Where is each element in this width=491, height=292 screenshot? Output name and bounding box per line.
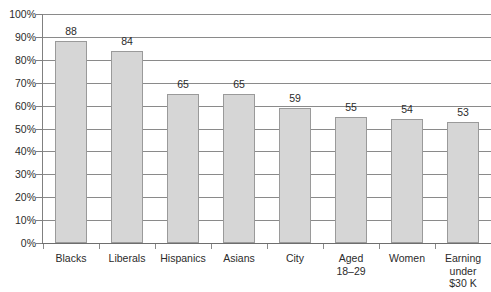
gridline xyxy=(43,37,491,38)
y-axis-tick-mark xyxy=(36,174,42,175)
x-axis-tick-mark xyxy=(155,244,156,249)
bar xyxy=(335,117,367,243)
y-axis-tick-label: 40% xyxy=(15,146,36,157)
bar xyxy=(391,119,423,243)
x-axis-tick-mark xyxy=(43,244,44,249)
y-axis-tick-mark xyxy=(36,106,42,107)
x-axis-category-label: Aged 18–29 xyxy=(336,252,365,277)
bar xyxy=(111,51,143,243)
x-axis-category-label: Earning under $30 K xyxy=(445,252,481,290)
y-axis-tick-label: 10% xyxy=(15,215,36,226)
bar-value-label: 88 xyxy=(65,26,77,37)
x-axis-category-label: Liberals xyxy=(109,252,146,265)
y-axis-tick-mark xyxy=(36,243,42,244)
gridline xyxy=(43,14,491,15)
y-axis-tick-mark xyxy=(36,37,42,38)
bar-value-label: 53 xyxy=(457,107,469,118)
y-axis-tick-mark xyxy=(36,14,42,15)
bar xyxy=(167,94,199,243)
plot-area xyxy=(43,14,491,243)
x-axis-category-label: Women xyxy=(389,252,425,265)
x-axis-category-label: Asians xyxy=(223,252,255,265)
x-axis-tick-mark xyxy=(435,244,436,249)
bar xyxy=(223,94,255,243)
x-axis-tick-mark xyxy=(211,244,212,249)
bar-value-label: 65 xyxy=(233,79,245,90)
x-axis-tick-mark xyxy=(267,244,268,249)
y-axis-tick-mark xyxy=(36,60,42,61)
y-axis-tick-label: 90% xyxy=(15,32,36,43)
bar xyxy=(447,122,479,243)
bar-chart: 100%90%80%70%60%50%40%30%20%10%0% 88Blac… xyxy=(0,0,491,292)
y-axis-tick-label: 20% xyxy=(15,192,36,203)
bar-value-label: 84 xyxy=(121,36,133,47)
y-axis-tick-mark xyxy=(36,129,42,130)
y-axis-tick-label: 80% xyxy=(15,55,36,66)
bar xyxy=(55,41,87,243)
bar xyxy=(279,108,311,243)
y-axis-tick-label: 70% xyxy=(15,77,36,88)
y-axis-tick-label: 100% xyxy=(9,9,36,20)
y-axis-tick-label: 50% xyxy=(15,123,36,134)
y-axis-tick-mark xyxy=(36,197,42,198)
bar-value-label: 55 xyxy=(345,102,357,113)
bar-value-label: 59 xyxy=(289,93,301,104)
x-axis-tick-mark xyxy=(323,244,324,249)
x-axis-category-label: Hispanics xyxy=(160,252,206,265)
y-axis-tick-label: 30% xyxy=(15,169,36,180)
bar-value-label: 65 xyxy=(177,79,189,90)
y-axis: 100%90%80%70%60%50%40%30%20%10%0% xyxy=(0,0,36,292)
y-axis-tick-mark xyxy=(36,83,42,84)
y-axis-tick-label: 60% xyxy=(15,100,36,111)
bar-value-label: 54 xyxy=(401,104,413,115)
x-axis-category-label: Blacks xyxy=(56,252,87,265)
y-axis-tick-mark xyxy=(36,151,42,152)
y-axis-tick-mark xyxy=(36,220,42,221)
x-axis-tick-mark xyxy=(379,244,380,249)
x-axis-category-label: City xyxy=(286,252,304,265)
y-axis-tick-label: 0% xyxy=(21,238,36,249)
x-axis-tick-mark xyxy=(99,244,100,249)
